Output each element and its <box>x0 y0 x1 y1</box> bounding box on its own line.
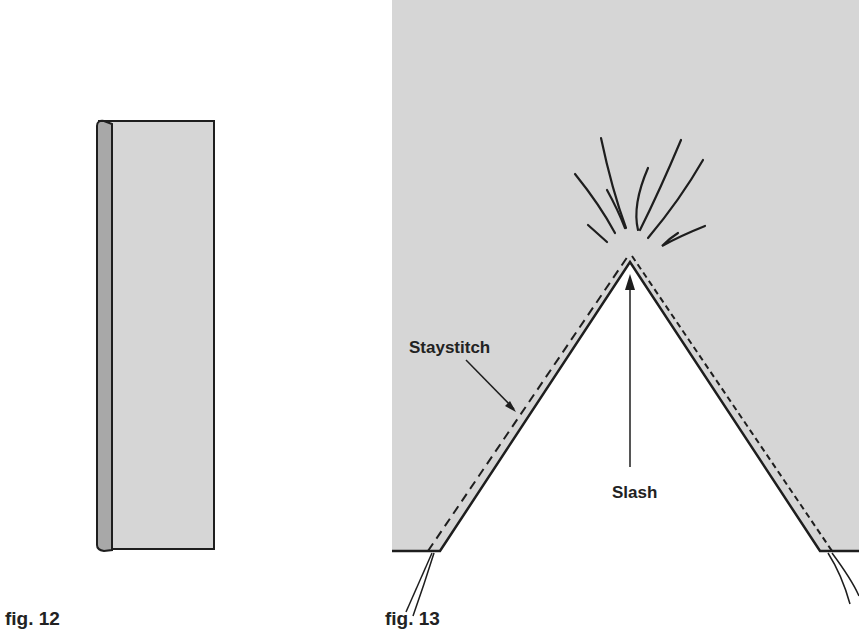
fig13-fabric: Staystitch Slash <box>392 0 859 616</box>
illustration-canvas: Staystitch Slash <box>0 0 859 643</box>
slash-label: Slash <box>612 483 657 502</box>
strip-face <box>107 121 214 549</box>
fig12-caption: fig. 12 <box>5 608 60 630</box>
staystitch-label: Staystitch <box>409 338 490 357</box>
fig13-caption: fig. 13 <box>385 608 440 630</box>
thread-right-a <box>828 553 850 604</box>
fig12-folded-strip <box>97 121 214 551</box>
strip-fold-edge <box>97 121 112 551</box>
slash-arrowhead <box>625 274 635 290</box>
thread-left-b <box>413 553 434 616</box>
fabric-panel <box>392 0 859 551</box>
thread-left-a <box>406 553 432 612</box>
